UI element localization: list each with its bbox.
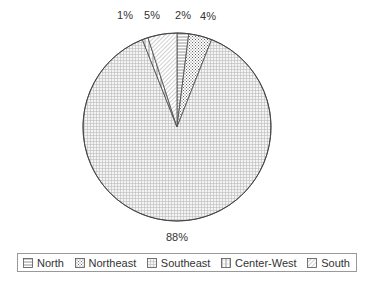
- north-swatch-icon: [23, 258, 33, 268]
- legend-item-northeast: Northeast: [75, 257, 137, 269]
- legend-label: North: [37, 257, 64, 269]
- slice-label: 5%: [144, 9, 160, 21]
- legend-item-southeast: Southeast: [147, 257, 211, 269]
- slice-label: 88%: [166, 231, 188, 243]
- southeast-swatch-icon: [147, 258, 157, 268]
- legend-label: Center-West: [235, 257, 297, 269]
- legend-label: South: [321, 257, 350, 269]
- legend-item-south: South: [307, 257, 350, 269]
- legend-label: Northeast: [89, 257, 137, 269]
- slice-label: 2%: [175, 9, 191, 21]
- center-west-swatch-icon: [221, 258, 231, 268]
- legend-item-center-west: Center-West: [221, 257, 297, 269]
- northeast-swatch-icon: [75, 258, 85, 268]
- legend: North Northeast Southeast Center-West So…: [17, 253, 357, 272]
- south-swatch-icon: [307, 258, 317, 268]
- pie-slices: [83, 33, 271, 221]
- legend-item-north: North: [23, 257, 64, 269]
- legend-label: Southeast: [161, 257, 211, 269]
- slice-label: 1%: [117, 9, 133, 21]
- slice-label: 4%: [200, 10, 216, 22]
- pie-chart: 2%4%88%1%5%: [0, 0, 374, 285]
